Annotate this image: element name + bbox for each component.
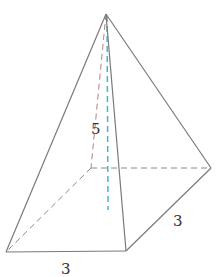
hidden-left-edge bbox=[6, 168, 91, 252]
right-lateral-edge bbox=[106, 14, 211, 168]
base-right-edge bbox=[126, 168, 211, 251]
base-front-edge bbox=[6, 251, 126, 252]
height-line bbox=[107, 16, 108, 210]
hidden-lateral-edge bbox=[91, 14, 106, 168]
base-side-label: 3 bbox=[173, 212, 183, 230]
pyramid-diagram: 5 3 3 bbox=[0, 0, 220, 277]
front-lateral-edge bbox=[106, 14, 126, 251]
base-front-label: 3 bbox=[61, 260, 71, 277]
height-label: 5 bbox=[91, 120, 101, 138]
